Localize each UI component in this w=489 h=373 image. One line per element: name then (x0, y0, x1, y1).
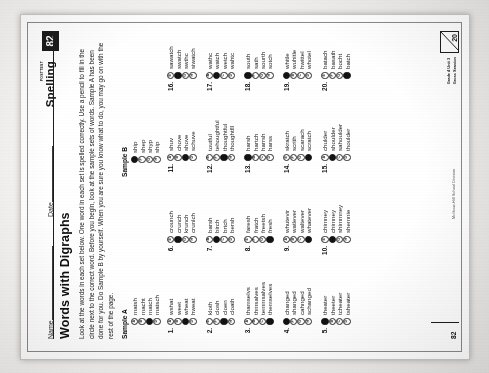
answer-bubble-f[interactable]: F (174, 72, 181, 79)
answer-option[interactable]: Hsiwatch (189, 19, 196, 79)
answer-bubble-h[interactable]: H (343, 72, 350, 79)
answer-option[interactable]: Hschanged (305, 265, 312, 325)
answer-bubble-h[interactable]: H (228, 154, 235, 161)
answer-option[interactable]: Gfreetsh (259, 183, 266, 243)
question-options[interactable]: AbarshBbirchCbrtchDbersh (206, 183, 236, 243)
question-options[interactable]: EcrounchFcrunchGkrunchHcrunlch (167, 183, 197, 243)
answer-bubble-e[interactable]: E (283, 318, 290, 325)
answer-option[interactable]: Hsotch (266, 19, 273, 79)
answer-bubble-e[interactable]: E (321, 236, 328, 243)
answer-option[interactable]: Ftehoughtful (213, 101, 220, 161)
answer-option[interactable]: Gswthc (182, 19, 189, 79)
answer-option[interactable]: Gkrunch (182, 183, 189, 243)
answer-bubble-b[interactable]: B (329, 154, 336, 161)
answer-option[interactable]: Achulder (321, 101, 328, 161)
answer-bubble-f[interactable]: F (252, 72, 259, 79)
answer-option[interactable]: Gcahnged (297, 265, 304, 325)
answer-bubble-e[interactable]: E (167, 72, 174, 79)
answer-option[interactable]: Awhutevir (283, 183, 290, 243)
answer-option[interactable]: Hship (153, 140, 160, 163)
question-options[interactable]: AwhutevirBwatleverCwalteverDwhatever (283, 183, 313, 243)
question-options[interactable]: EsouthFsathGsourthHsotch (244, 19, 274, 79)
answer-option[interactable]: Bthmsalves (252, 265, 259, 325)
answer-option[interactable]: Atheater (321, 265, 328, 325)
question-options[interactable]: EsawatchFswatchGswthcHsiwatch (167, 19, 197, 79)
answer-bubble-b[interactable]: B (252, 154, 259, 161)
question-options[interactable]: AshuvBchoveCshoveDschuve (167, 101, 197, 161)
answer-option[interactable]: Bmacht (138, 295, 145, 325)
answer-bubble-c[interactable]: C (297, 72, 304, 79)
answer-option[interactable]: Hshemnie (343, 183, 350, 243)
question-options[interactable]: AtheaterBtheeterCtcheaterDtsheater (321, 265, 351, 325)
answer-bubble-a[interactable]: A (283, 72, 290, 79)
answer-bubble-c[interactable]: C (336, 154, 343, 161)
answer-bubble-h[interactable]: H (343, 236, 350, 243)
answer-option[interactable]: Gscarach (297, 101, 304, 161)
answer-option[interactable]: Csahoulder (336, 101, 343, 161)
answer-bubble-f[interactable]: F (290, 154, 297, 161)
answer-option[interactable]: Gshimmney (336, 183, 343, 243)
answer-bubble-h[interactable]: H (266, 236, 273, 243)
answer-option[interactable]: Dbersh (228, 183, 235, 243)
answer-bubble-f[interactable]: F (252, 236, 259, 243)
answer-option[interactable]: Dwahtc (228, 19, 235, 79)
answer-option[interactable]: Dthemselves (266, 265, 273, 325)
answer-option[interactable]: Fchimney (329, 183, 336, 243)
answer-bubble-g[interactable]: G (146, 156, 153, 163)
answer-option[interactable]: Ashuv (167, 101, 174, 161)
answer-bubble-g[interactable]: G (220, 154, 227, 161)
answer-bubble-a[interactable]: A (167, 318, 174, 325)
answer-option[interactable]: Charrsh (259, 101, 266, 161)
answer-bubble-c[interactable]: C (259, 154, 266, 161)
answer-option[interactable]: Fshep (138, 140, 145, 163)
answer-option[interactable]: Hfresh (266, 183, 273, 243)
answer-bubble-g[interactable]: G (182, 72, 189, 79)
answer-option[interactable]: Esouth (244, 19, 251, 79)
answer-option[interactable]: Bchove (174, 101, 181, 161)
answer-bubble-e[interactable]: E (131, 156, 138, 163)
answer-bubble-b[interactable]: B (174, 318, 181, 325)
question-options[interactable]: AthamselvsBthmsalvesCtemmsalvesDthemselv… (244, 265, 274, 325)
answer-option[interactable]: Cwaltever (297, 183, 304, 243)
answer-bubble-f[interactable]: F (290, 318, 297, 325)
answer-option[interactable]: Fsath (252, 19, 259, 79)
answer-bubble-d[interactable]: D (266, 318, 273, 325)
answer-option[interactable]: Ctcheater (336, 265, 343, 325)
sample-a-options[interactable]: AmatshBmachtCmatchDmatsch (131, 295, 161, 325)
answer-option[interactable]: Dharss (266, 101, 273, 161)
answer-option[interactable]: Aharsh (244, 101, 251, 161)
answer-bubble-e[interactable]: E (321, 72, 328, 79)
answer-bubble-b[interactable]: B (213, 72, 220, 79)
answer-bubble-g[interactable]: G (220, 318, 227, 325)
answer-bubble-b[interactable]: B (329, 318, 336, 325)
answer-bubble-h[interactable]: H (228, 318, 235, 325)
answer-option[interactable]: Hbatch (343, 19, 350, 79)
answer-bubble-a[interactable]: A (206, 236, 213, 243)
answer-bubble-d[interactable]: D (305, 72, 312, 79)
answer-bubble-h[interactable]: H (189, 236, 196, 243)
answer-bubble-a[interactable]: A (206, 72, 213, 79)
answer-bubble-b[interactable]: B (213, 236, 220, 243)
answer-bubble-a[interactable]: A (244, 154, 251, 161)
answer-bubble-a[interactable]: A (131, 318, 138, 325)
answer-bubble-h[interactable]: H (153, 156, 160, 163)
answer-option[interactable]: Dschuve (189, 101, 196, 161)
answer-bubble-e[interactable]: E (167, 236, 174, 243)
answer-bubble-a[interactable]: A (283, 236, 290, 243)
question-options[interactable]: EfareshFfratchGfreetshHfresh (244, 183, 274, 243)
answer-bubble-g[interactable]: G (182, 236, 189, 243)
answer-option[interactable]: Eship (131, 140, 138, 163)
question-options[interactable]: EskratchFscrithGscarachHscratch (283, 101, 313, 161)
answer-option[interactable]: Cwetch (220, 19, 227, 79)
answer-option[interactable]: Esawatch (167, 19, 174, 79)
answer-option[interactable]: Gcloen (220, 265, 227, 325)
answer-bubble-b[interactable]: B (174, 154, 181, 161)
answer-option[interactable]: Fscrith (290, 101, 297, 161)
answer-bubble-b[interactable]: B (290, 72, 297, 79)
answer-option[interactable]: Bwatch (213, 19, 220, 79)
answer-option[interactable]: Dmatsch (153, 295, 160, 325)
answer-bubble-d[interactable]: D (189, 318, 196, 325)
answer-option[interactable]: Amatsh (131, 295, 138, 325)
answer-option[interactable]: Dwhotel (305, 19, 312, 79)
answer-bubble-d[interactable]: D (305, 236, 312, 243)
